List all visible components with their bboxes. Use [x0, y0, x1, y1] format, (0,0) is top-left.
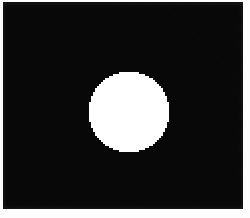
white-disc-scanline [103, 80, 155, 82]
white-disc-scanline [95, 90, 163, 92]
white-disc-scanline [89, 108, 169, 110]
white-disc-scanline [113, 74, 145, 76]
white-disc-scanline [93, 128, 165, 130]
white-disc-scanline [89, 114, 169, 116]
white-disc-scanline [99, 138, 159, 140]
white-disc-scanline [119, 72, 139, 74]
white-disc-scanline [89, 120, 169, 122]
white-disc-scanline [97, 86, 161, 88]
white-disc-scanline [109, 76, 149, 78]
figure-root [0, 0, 250, 218]
white-disc-scanline [89, 104, 169, 106]
white-disc-scanline [101, 140, 157, 142]
white-disc-scanline [109, 146, 149, 148]
white-disc-scanline [89, 116, 169, 118]
white-disc-svg [3, 2, 243, 209]
white-disc-scanline [91, 124, 167, 126]
white-disc-scanline [91, 100, 167, 102]
white-disc-scanline [89, 118, 169, 120]
white-disc-scanline [89, 106, 169, 108]
white-disc-scanline [95, 88, 163, 90]
white-disc-scanline [95, 134, 163, 136]
white-disc-scanline [105, 144, 153, 146]
white-disc-scanline [93, 94, 165, 96]
white-disc-scanline [101, 82, 157, 84]
white-disc-layer [3, 2, 243, 209]
binary-image-field [3, 2, 243, 209]
white-disc-scanline [105, 78, 153, 80]
white-disc-scanline [119, 150, 139, 152]
white-disc-scanline [91, 126, 167, 128]
white-disc-scanline [113, 148, 145, 150]
white-disc-scanline [103, 142, 155, 144]
white-disc-scanline [97, 136, 161, 138]
white-disc-scanline [89, 110, 169, 112]
white-disc-scanline [91, 98, 167, 100]
white-disc-scanline [93, 92, 165, 94]
white-disc-scanline [91, 96, 167, 98]
white-disc-scanline [91, 122, 167, 124]
white-disc-scanline [93, 130, 165, 132]
white-disc-scanline [95, 132, 163, 134]
white-disc-group [89, 72, 169, 152]
white-disc-scanline [89, 102, 169, 104]
white-disc-scanline [89, 112, 169, 114]
white-disc-scanline [99, 84, 159, 86]
